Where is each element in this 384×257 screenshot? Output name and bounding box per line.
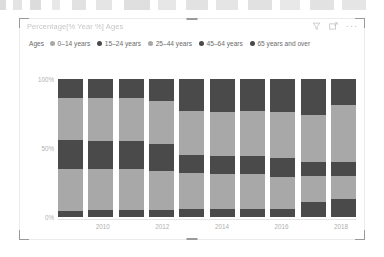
bar-segment[interactable]: [301, 176, 326, 202]
bar-segment[interactable]: [270, 158, 295, 177]
bar-column[interactable]: [240, 79, 265, 217]
bar-segment[interactable]: [179, 79, 204, 111]
x-axis-tick-label: 2014: [215, 223, 229, 230]
legend-swatch-icon: [148, 41, 153, 46]
legend-label: 0–14 years: [58, 40, 91, 47]
bar-column[interactable]: [331, 79, 356, 217]
visual-title: Percentage[% Year %] Ages: [27, 22, 123, 31]
legend-item-65-over[interactable]: 65 years and over: [250, 40, 310, 47]
bar-segment[interactable]: [270, 209, 295, 217]
bar-column[interactable]: [270, 79, 295, 217]
bar-column[interactable]: [179, 79, 204, 217]
bar-segment[interactable]: [240, 79, 265, 111]
legend-swatch-icon: [50, 41, 55, 46]
bar-series-group[interactable]: [58, 79, 356, 217]
bar-column[interactable]: [119, 79, 144, 217]
bar-segment[interactable]: [210, 79, 235, 112]
bar-segment[interactable]: [270, 79, 295, 112]
x-axis-tick-label: 2016: [274, 223, 288, 230]
bar-segment[interactable]: [179, 111, 204, 155]
visual-header: Percentage[% Year %] Ages ···: [20, 19, 364, 39]
bar-segment[interactable]: [119, 98, 144, 141]
bar-segment[interactable]: [119, 79, 144, 98]
legend-swatch-icon: [199, 41, 204, 46]
bar-segment[interactable]: [88, 79, 113, 98]
bar-segment[interactable]: [331, 79, 356, 105]
bar-segment[interactable]: [179, 173, 204, 209]
legend-title: Ages: [29, 40, 44, 47]
bar-segment[interactable]: [270, 112, 295, 158]
bar-segment[interactable]: [149, 210, 174, 217]
legend-item-25-44[interactable]: 25–44 years: [148, 40, 192, 47]
bar-segment[interactable]: [119, 210, 144, 217]
more-options-icon[interactable]: ···: [346, 22, 358, 31]
legend-item-0-14[interactable]: 0–14 years: [50, 40, 90, 47]
bar-column[interactable]: [301, 79, 326, 217]
bar-segment[interactable]: [301, 79, 326, 115]
legend-swatch-icon: [250, 41, 255, 46]
y-axis-tick-label: 50%: [41, 145, 54, 152]
x-axis-tick-label: 2010: [96, 223, 110, 230]
legend-item-15-24[interactable]: 15–24 years: [97, 40, 141, 47]
bar-segment[interactable]: [240, 111, 265, 157]
bar-segment[interactable]: [331, 199, 356, 217]
bar-segment[interactable]: [210, 112, 235, 156]
chart-legend: Ages 0–14 years 15–24 years 25–44 years …: [29, 40, 317, 47]
plot-area: 100%50%0% 20102012201420162018: [20, 69, 364, 239]
bar-column[interactable]: [88, 79, 113, 217]
bar-segment[interactable]: [149, 144, 174, 172]
bar-segment[interactable]: [270, 177, 295, 209]
bar-segment[interactable]: [88, 169, 113, 210]
bar-segment[interactable]: [58, 98, 83, 139]
legend-item-45-64[interactable]: 45–64 years: [199, 40, 243, 47]
bar-column[interactable]: [58, 79, 83, 217]
x-axis-tick-label: 2018: [334, 223, 348, 230]
visual-toolbar[interactable]: ···: [312, 22, 358, 31]
bar-segment[interactable]: [149, 79, 174, 101]
bar-segment[interactable]: [240, 156, 265, 174]
bar-segment[interactable]: [301, 115, 326, 162]
y-axis-tick-label: 0%: [45, 214, 54, 221]
bar-segment[interactable]: [179, 209, 204, 217]
bar-segment[interactable]: [58, 211, 83, 217]
bar-segment[interactable]: [119, 169, 144, 210]
legend-label: 15–24 years: [105, 40, 141, 47]
bar-segment[interactable]: [58, 169, 83, 212]
bar-segment[interactable]: [88, 141, 113, 169]
y-axis-tick-label: 100%: [38, 76, 54, 83]
bar-segment[interactable]: [331, 176, 356, 199]
bar-segment[interactable]: [240, 209, 265, 217]
bar-segment[interactable]: [179, 155, 204, 173]
bar-segment[interactable]: [88, 98, 113, 141]
x-axis-tick-label: 2012: [155, 223, 169, 230]
bar-segment[interactable]: [301, 162, 326, 176]
bar-segment[interactable]: [331, 162, 356, 176]
bar-segment[interactable]: [331, 105, 356, 162]
legend-label: 45–64 years: [207, 40, 243, 47]
legend-label: 65 years and over: [257, 40, 310, 47]
x-axis-line: [58, 219, 356, 220]
bar-segment[interactable]: [210, 174, 235, 209]
bar-segment[interactable]: [210, 156, 235, 174]
x-axis: 20102012201420162018: [58, 219, 356, 237]
bar-segment[interactable]: [58, 140, 83, 169]
focus-mode-icon[interactable]: [329, 22, 338, 31]
y-axis: 100%50%0%: [28, 79, 54, 217]
legend-label: 25–44 years: [156, 40, 192, 47]
legend-swatch-icon: [97, 41, 102, 46]
stacked-column-chart-visual[interactable]: Percentage[% Year %] Ages ··· Ages 0–14 …: [19, 18, 365, 240]
bar-segment[interactable]: [149, 101, 174, 144]
bar-segment[interactable]: [240, 174, 265, 209]
bar-segment[interactable]: [58, 79, 83, 98]
bar-segment[interactable]: [149, 171, 174, 210]
screenshot-top-artifact: [0, 0, 384, 10]
bar-column[interactable]: [210, 79, 235, 217]
bar-segment[interactable]: [210, 209, 235, 217]
bar-segment[interactable]: [119, 141, 144, 169]
bar-segment[interactable]: [301, 202, 326, 217]
bar-column[interactable]: [149, 79, 174, 217]
bar-segment[interactable]: [88, 210, 113, 217]
filter-funnel-icon[interactable]: [312, 22, 321, 31]
